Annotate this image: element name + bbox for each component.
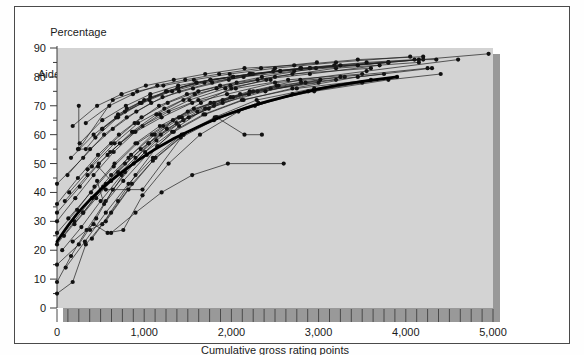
data-point-marker [55,280,59,284]
data-point-marker [95,104,99,108]
data-point-marker [89,190,93,194]
data-point-marker [148,92,152,96]
data-point-marker [334,60,338,64]
data-point-marker [135,141,139,145]
data-point-marker [100,118,104,122]
data-point-marker [360,72,364,76]
y-tick-label: 90 [34,42,46,54]
data-point-marker [203,72,207,76]
data-point-marker [154,112,158,116]
data-point-marker [430,66,434,70]
data-point-marker [66,216,70,220]
data-point-marker [112,164,116,168]
y-tick-label: 0 [40,302,46,314]
data-point-marker [378,63,382,67]
data-point-marker [228,95,232,99]
y-tick-label: 10 [34,273,46,285]
data-point-marker [92,222,96,226]
x-tick-label: 1,000 [130,326,158,338]
data-point-marker [133,121,137,125]
x-axis-ticks [57,309,493,322]
data-point-marker [167,162,171,166]
data-point-marker [160,190,164,194]
data-point-marker [65,173,69,177]
data-point-marker [107,104,111,108]
data-point-marker [131,92,135,96]
data-point-marker [94,216,98,220]
data-point-marker [198,133,202,137]
data-point-marker [248,72,252,76]
data-point-marker [79,225,83,229]
data-point-marker [356,75,360,79]
plot-shadow-right [493,54,500,322]
data-point-marker [71,240,75,244]
data-point-marker [121,228,125,232]
data-point-marker [126,156,130,160]
data-point-marker [275,84,279,88]
data-point-marker [55,182,59,186]
data-point-marker [176,84,180,88]
x-axis-tick-labels: 01,0002,0003,0004,0005,000 [54,326,507,338]
x-axis-label: Cumulative gross rating points [201,344,349,355]
data-point-marker [111,127,115,131]
data-point-marker [84,121,88,125]
x-tick-label: 5,000 [479,326,507,338]
data-point-marker [183,78,187,82]
data-point-marker [104,211,108,215]
x-tick-label: 0 [54,326,60,338]
data-point-marker [140,188,144,192]
data-point-marker [88,228,92,232]
data-point-marker [71,124,75,128]
data-point-marker [256,78,260,82]
data-point-marker [55,231,59,235]
x-tick-label: 4,000 [392,326,420,338]
data-point-marker [308,72,312,76]
data-point-marker [63,199,67,203]
data-point-marker [161,124,165,128]
data-point-marker [456,58,460,62]
data-point-marker [60,248,64,252]
data-point-marker [71,280,75,284]
data-point-marker [124,104,128,108]
data-point-marker [77,242,81,246]
data-point-marker [231,75,235,79]
data-point-marker [55,211,59,215]
data-point-marker [121,179,125,183]
data-point-marker [140,193,144,197]
data-point-marker [133,211,137,215]
data-point-marker [286,78,290,82]
x-tick-label: 2,000 [218,326,246,338]
y-tick-label: 70 [34,100,46,112]
data-point-marker [77,104,81,108]
data-point-marker [434,58,438,62]
data-point-marker [83,240,87,244]
data-point-marker [73,196,77,200]
y-tick-label: 60 [34,129,46,141]
data-point-marker [487,52,491,56]
data-point-marker [157,104,161,108]
data-point-marker [191,86,195,90]
data-point-marker [242,133,246,137]
data-point-marker [119,92,123,96]
data-point-marker [106,153,110,157]
data-point-marker [92,173,96,177]
data-point-marker [55,292,59,296]
data-point-marker [190,173,194,177]
data-point-marker [315,60,319,64]
data-point-marker [242,98,246,102]
data-point-marker [55,202,59,206]
data-point-marker [95,179,99,183]
data-point-marker [356,58,360,62]
data-point-marker [278,69,282,73]
data-point-marker [299,66,303,70]
data-point-marker [194,81,198,85]
data-point-marker [160,95,164,99]
data-point-marker [99,199,103,203]
data-point-marker [155,84,159,88]
plot-shadow-bottom [63,308,500,322]
data-point-marker [85,167,89,171]
data-point-marker [365,69,369,73]
data-point-marker [215,86,219,90]
data-point-marker [55,263,59,267]
y-axis-ticks [50,48,57,308]
